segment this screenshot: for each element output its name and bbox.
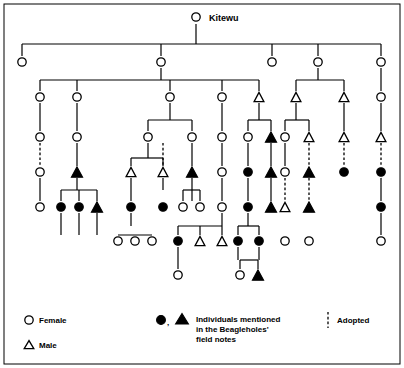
person-male-mentioned [186, 167, 197, 177]
adoption-lines-group [40, 143, 381, 201]
apex-ancestor-label: Kitewu [209, 13, 239, 23]
person-female-mentioned [159, 203, 168, 212]
person-female [268, 58, 276, 66]
legend-mentioned-label-line2: in the Beagleholes' [196, 325, 269, 334]
person-male [158, 167, 168, 176]
kinship-diagram: Kitewu Female Male , Individuals mention… [0, 0, 404, 368]
person-male-mentioned [303, 202, 314, 212]
person-female-mentioned [340, 168, 349, 177]
person-female [73, 93, 81, 101]
person-female-mentioned [75, 203, 84, 212]
person-female [192, 13, 200, 21]
person-female [148, 237, 156, 245]
person-male-mentioned [265, 167, 276, 177]
person-female [218, 168, 226, 176]
legend-female-label: Female [39, 316, 67, 325]
person-female [377, 58, 385, 66]
person-female [281, 133, 289, 141]
person-female [218, 133, 226, 141]
person-male-mentioned [265, 202, 276, 212]
person-male [254, 92, 264, 101]
person-female [196, 203, 204, 211]
person-male-mentioned [71, 167, 82, 177]
person-male [339, 92, 349, 101]
legend-mentioned-male-icon [176, 314, 189, 325]
person-female-mentioned [244, 203, 253, 212]
person-female-mentioned [244, 168, 253, 177]
person-male-mentioned [265, 132, 276, 142]
person-female [377, 93, 385, 101]
person-female [114, 237, 122, 245]
person-symbols-group [18, 13, 386, 280]
legend-mentioned-separator: , [167, 318, 169, 327]
person-female-mentioned [234, 237, 243, 246]
person-female [179, 203, 187, 211]
person-female [218, 93, 226, 101]
legend-adopted-label: Adopted [337, 316, 370, 325]
person-female-mentioned [57, 203, 66, 212]
person-female-mentioned [127, 203, 136, 212]
person-female [36, 168, 44, 176]
person-female [18, 58, 26, 66]
legend-female-icon [25, 316, 33, 324]
person-female [36, 203, 44, 211]
person-female [36, 133, 44, 141]
person-female [314, 58, 322, 66]
person-female [305, 237, 313, 245]
person-female [281, 237, 289, 245]
person-female [131, 237, 139, 245]
person-female [218, 203, 226, 211]
person-male-mentioned [252, 270, 263, 280]
person-female [377, 237, 385, 245]
diagram-border [4, 4, 400, 364]
legend: Female Male , Individuals mentioned in t… [24, 312, 369, 350]
person-female [144, 133, 152, 141]
person-female-mentioned [255, 237, 264, 246]
person-male [280, 202, 290, 211]
person-male [339, 132, 349, 141]
person-female [174, 271, 182, 279]
legend-male-icon [24, 341, 34, 349]
legend-mentioned-female-icon [157, 316, 166, 325]
descent-lines-group [22, 24, 381, 269]
person-female [166, 93, 174, 101]
person-male [217, 236, 227, 245]
person-female [73, 133, 81, 141]
person-female-mentioned [174, 237, 183, 246]
person-male [376, 132, 386, 141]
legend-male-label: Male [39, 341, 57, 350]
person-female [157, 58, 165, 66]
person-female [236, 271, 244, 279]
legend-mentioned-label-line1: Individuals mentioned [196, 315, 281, 324]
person-male [304, 132, 314, 141]
person-female-mentioned [377, 203, 386, 212]
person-female [36, 93, 44, 101]
person-female [188, 133, 196, 141]
legend-mentioned-label-line3: field notes [196, 335, 237, 344]
person-male-mentioned [91, 202, 102, 212]
person-male [195, 236, 205, 245]
person-female [244, 133, 252, 141]
person-male [126, 167, 136, 176]
person-male-mentioned [303, 167, 314, 177]
person-female [281, 168, 289, 176]
person-female-mentioned [377, 168, 386, 177]
person-male [291, 92, 301, 101]
